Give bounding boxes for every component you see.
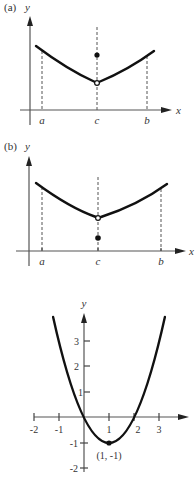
panel-c-xlabel-m2: -2 xyxy=(30,424,38,435)
panel-a-x-label: x xyxy=(175,104,181,116)
panel-c-xlabel-2: 2 xyxy=(136,424,141,435)
panel-c-xlabel-1: 1 xyxy=(107,424,112,435)
panel-c: y -2 -1 1 2 3 3 2 1 -1 -2 (1, xyxy=(30,297,189,474)
panel-c-ylabel-2: 2 xyxy=(74,361,79,372)
panel-b-x-arrow-icon xyxy=(175,248,186,254)
panel-a-y-arrow-icon xyxy=(27,16,33,26)
panel-a-y-label: y xyxy=(24,1,30,13)
panel-c-ylabel-m1: -1 xyxy=(70,438,78,449)
panel-a: (a) y x a c b xyxy=(4,1,181,126)
panel-b-open-circle xyxy=(96,216,101,221)
panel-b-tick-c: c xyxy=(96,255,101,267)
panel-a-open-circle xyxy=(95,81,100,86)
panel-c-y-label: y xyxy=(81,297,87,309)
panel-b: (b) y x a c b xyxy=(4,140,194,267)
panel-c-ylabel-1: 1 xyxy=(78,387,83,398)
panel-a-tick-a: a xyxy=(39,114,45,126)
panel-b-tick-a: a xyxy=(39,255,45,267)
panel-b-filled-dot xyxy=(95,235,101,241)
panel-a-curve xyxy=(36,46,154,82)
panel-c-ylabel-m2: -2 xyxy=(70,463,78,474)
panel-b-x-label: x xyxy=(188,245,194,257)
panel-a-tick-b: b xyxy=(144,114,150,126)
figure: (a) y x a c b (b) y x xyxy=(0,0,196,487)
panel-b-y-label: y xyxy=(24,140,30,152)
panel-c-x-arrow-icon xyxy=(178,414,189,420)
panel-c-vertex-label: (1, -1) xyxy=(97,450,122,462)
panel-a-tick-c: c xyxy=(95,114,100,126)
panel-a-filled-dot xyxy=(94,52,99,57)
panel-c-y-arrow-icon xyxy=(81,313,87,323)
panel-c-xlabel-3: 3 xyxy=(157,424,162,435)
panel-a-label: (a) xyxy=(4,1,17,14)
panel-c-ylabel-3: 3 xyxy=(74,336,79,347)
panel-b-y-arrow-icon xyxy=(26,156,32,166)
panel-b-curve xyxy=(36,183,167,217)
panel-c-xlabel-m1: -1 xyxy=(55,424,63,435)
panel-b-label: (b) xyxy=(4,140,17,153)
panel-b-tick-b: b xyxy=(158,255,164,267)
panel-c-vertex-dot xyxy=(106,440,111,445)
panel-a-x-arrow-icon xyxy=(161,107,172,113)
